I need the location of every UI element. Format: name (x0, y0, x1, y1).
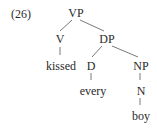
leaf-every: every (80, 85, 107, 97)
leaf-boy: boy (132, 110, 150, 122)
leaf-kissed: kissed (46, 60, 76, 72)
node-v: V (56, 33, 65, 45)
syntax-tree-diagram: (26) VP V DP kissed D NP every N boy (0, 0, 157, 129)
edge-dp-np (112, 46, 138, 57)
edge-vp-dp (80, 20, 104, 31)
example-number: (26) (11, 8, 31, 20)
node-n: N (137, 85, 146, 97)
node-np: NP (133, 60, 148, 72)
node-dp: DP (99, 33, 114, 45)
edge-vp-v (60, 20, 72, 31)
node-d: D (87, 60, 96, 72)
node-vp: VP (68, 7, 83, 19)
edge-dp-d (92, 46, 102, 57)
